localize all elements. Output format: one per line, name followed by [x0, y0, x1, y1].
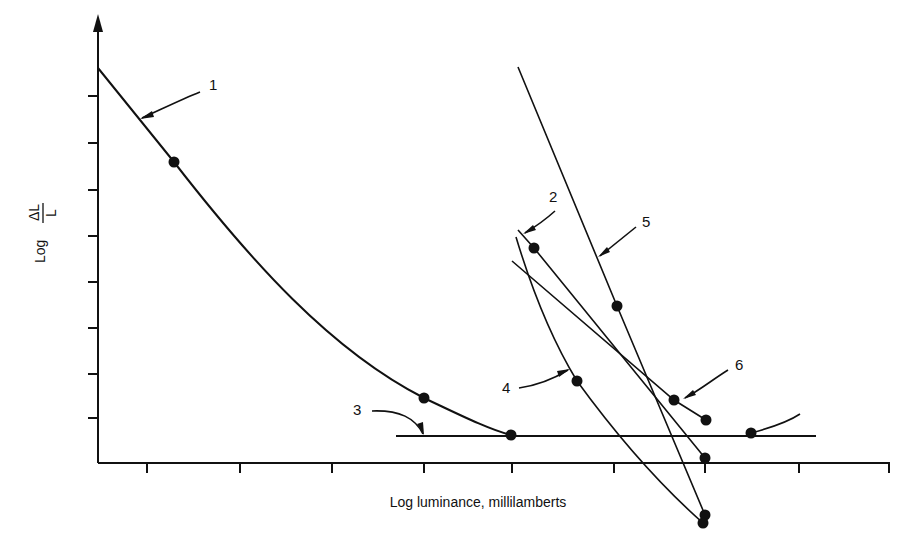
svg-text:3: 3	[353, 401, 361, 418]
data-points	[169, 157, 757, 529]
svg-text:4: 4	[502, 379, 510, 396]
y-axis-label: Log ΔL L	[26, 203, 59, 263]
callout-6: 6	[683, 356, 743, 399]
curve-2	[518, 230, 705, 458]
y-label-numerator: ΔL	[26, 204, 42, 221]
y-axis	[88, 14, 103, 463]
svg-text:1: 1	[209, 76, 217, 93]
x-axis	[98, 463, 890, 473]
callout-5: 5	[598, 213, 650, 257]
curve-1-upturn	[751, 414, 800, 433]
callout-2: 2	[523, 188, 557, 234]
curve-1	[98, 68, 511, 435]
x-axis-label: Log luminance, millilamberts	[390, 494, 567, 510]
callout-4: 4	[502, 369, 570, 396]
y-label-denominator: L	[43, 209, 59, 217]
callout-1: 1	[140, 76, 217, 119]
svg-text:5: 5	[642, 213, 650, 230]
y-axis-arrow-icon	[93, 14, 103, 32]
chart: Log luminance, millilamberts Log ΔL L 1	[0, 0, 900, 542]
y-label-prefix: Log	[32, 240, 48, 263]
curve-4	[516, 237, 703, 523]
svg-text:2: 2	[549, 188, 557, 205]
svg-text:6: 6	[735, 356, 743, 373]
callout-3: 3	[353, 401, 424, 435]
